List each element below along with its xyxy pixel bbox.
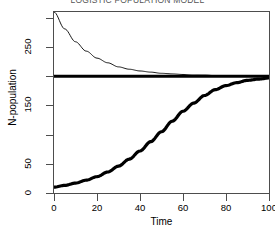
y-tick-label: 150 (22, 90, 33, 120)
x-axis-title: Time (53, 216, 270, 227)
y-tick-label: 0 (22, 178, 33, 208)
y-tick (46, 105, 53, 106)
y-tick-minor (46, 135, 53, 136)
x-tick (269, 194, 270, 201)
x-tick (183, 194, 184, 201)
x-tick (226, 194, 227, 201)
y-tick-label: 50 (22, 148, 33, 178)
x-tick (54, 194, 55, 201)
logistic-growth-curve (54, 78, 269, 187)
chart-screenshot: LOGISTIC POPULATION MODEL 050150250 0204… (0, 0, 275, 239)
chart-title: LOGISTIC POPULATION MODEL (0, 0, 275, 5)
x-tick-label: 100 (254, 202, 275, 213)
plot-area (53, 11, 270, 194)
y-tick (46, 164, 53, 165)
y-tick-minor (46, 18, 53, 19)
x-tick (140, 194, 141, 201)
exponential-decay-curve (54, 12, 269, 76)
y-tick-minor (46, 76, 53, 77)
y-tick (46, 193, 53, 194)
x-tick-label: 60 (168, 202, 198, 213)
x-tick-label: 20 (82, 202, 112, 213)
plot-curves (54, 12, 269, 193)
x-tick-label: 0 (39, 202, 69, 213)
x-tick-label: 40 (125, 202, 155, 213)
x-tick (97, 194, 98, 201)
x-tick-label: 80 (211, 202, 241, 213)
y-tick (46, 47, 53, 48)
y-tick-label: 250 (22, 32, 33, 62)
y-axis-title: N-population (7, 58, 18, 138)
